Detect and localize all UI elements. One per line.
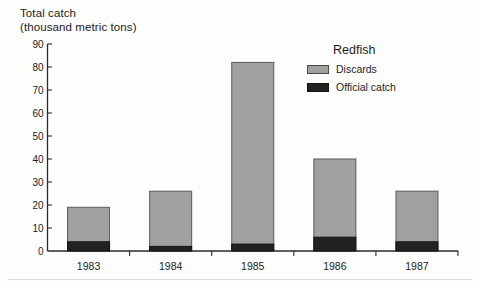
y-tick-label-10: 10: [32, 223, 44, 234]
bar-1985-discards: [232, 62, 274, 251]
discards-swatch-icon: [307, 65, 329, 74]
legend-title: Redfish: [333, 43, 457, 57]
bar-1987-official-catch: [396, 242, 438, 251]
y-tick-label-40: 40: [32, 154, 44, 165]
figure: Total catch (thousand metric tons) 01020…: [0, 0, 479, 285]
y-tick-label-20: 20: [32, 200, 44, 211]
x-label-1987: 1987: [405, 260, 429, 272]
y-tick-label-0: 0: [38, 246, 44, 257]
x-label-1986: 1986: [323, 260, 347, 272]
bar-1983-official-catch: [68, 242, 110, 251]
y-tick-label-30: 30: [32, 177, 44, 188]
legend: Redfish Discards Official catch: [307, 43, 457, 93]
bar-1984-discards: [150, 191, 192, 251]
x-label-1985: 1985: [241, 260, 265, 272]
y-tick-label-80: 80: [32, 62, 44, 73]
x-label-1984: 1984: [159, 260, 183, 272]
official-catch-swatch-icon: [307, 83, 329, 92]
y-tick-label-60: 60: [32, 108, 44, 119]
y-tick-label-90: 90: [32, 39, 44, 50]
legend-item-label-official-catch: Official catch: [336, 81, 396, 93]
bar-1985-official-catch: [232, 244, 274, 251]
scan-artifact-line: [8, 279, 472, 280]
y-tick-label-50: 50: [32, 131, 44, 142]
legend-item-label-discards: Discards: [336, 63, 377, 75]
bar-1986-official-catch: [314, 237, 356, 251]
y-tick-label-70: 70: [32, 85, 44, 96]
bar-1984-official-catch: [150, 246, 192, 251]
x-label-1983: 1983: [77, 260, 101, 272]
legend-item-official-catch: Official catch: [307, 81, 457, 93]
legend-item-discards: Discards: [307, 63, 457, 75]
